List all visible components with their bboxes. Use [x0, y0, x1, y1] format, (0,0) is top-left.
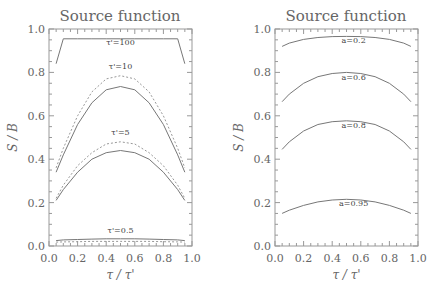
y-tick-label: 0.8	[254, 66, 272, 79]
chart-panel-2: Source function0.00.20.40.60.81.00.00.20…	[232, 7, 427, 282]
y-tick-label: 0.6	[28, 110, 46, 123]
curve-label: τ'=0.5	[107, 226, 133, 235]
chart-panel-1: Source function0.00.20.40.60.81.00.00.20…	[6, 7, 201, 282]
axis-ticks	[275, 29, 418, 246]
x-tick-label: 1.0	[183, 252, 201, 265]
chart-title: Source function	[286, 7, 407, 25]
x-tick-label: 0.2	[295, 252, 313, 265]
x-tick-label: 0.2	[69, 252, 87, 265]
y-tick-label: 0.4	[254, 153, 272, 166]
y-tick-label: 0.4	[28, 153, 46, 166]
curve-label: τ'=100	[106, 38, 135, 47]
x-axis-label: τ / τ'	[332, 268, 360, 282]
x-tick-label: 0.4	[323, 252, 341, 265]
source-function-figure: Source function0.00.20.40.60.81.00.00.20…	[0, 0, 437, 293]
x-tick-label: 0.6	[352, 252, 370, 265]
plot-frame	[275, 29, 418, 246]
curve-label: a=0.8	[342, 121, 366, 130]
curve-label: a=0.6	[342, 73, 366, 82]
y-tick-label: 0.6	[254, 110, 272, 123]
curve-label: τ'=10	[109, 62, 133, 71]
x-tick-label: 0.0	[40, 252, 58, 265]
chart-title: Source function	[60, 7, 181, 25]
x-tick-label: 0.6	[126, 252, 144, 265]
x-tick-label: 0.8	[381, 252, 399, 265]
curve-label: τ'=5	[111, 128, 129, 137]
y-tick-label: 1.0	[28, 23, 46, 36]
y-tick-label: 0.0	[254, 240, 272, 253]
x-axis-label: τ / τ'	[106, 268, 134, 282]
x-tick-label: 1.0	[409, 252, 427, 265]
x-tick-label: 0.0	[266, 252, 284, 265]
y-tick-label: 0.0	[28, 240, 46, 253]
y-tick-label: 0.8	[28, 66, 46, 79]
curve-label: a=0.95	[339, 199, 368, 208]
series-line	[56, 241, 185, 242]
y-tick-label: 1.0	[254, 23, 272, 36]
y-axis-label: S / B	[6, 123, 20, 152]
series-line	[56, 76, 185, 168]
y-tick-label: 0.2	[28, 197, 46, 210]
x-tick-label: 0.8	[155, 252, 173, 265]
series-line	[56, 239, 185, 241]
y-axis-label: S / B	[232, 123, 246, 152]
series-line	[56, 151, 185, 201]
x-tick-label: 0.4	[97, 252, 115, 265]
curve-label: a=0.2	[342, 36, 366, 45]
y-tick-label: 0.2	[254, 197, 272, 210]
